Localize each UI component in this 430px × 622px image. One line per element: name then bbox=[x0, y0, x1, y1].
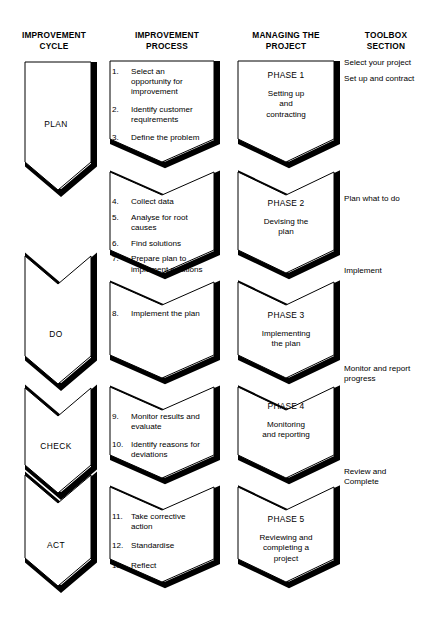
cycle-block-act[interactable]: ACT bbox=[20, 470, 92, 585]
process-item-text: Take corrective action bbox=[131, 512, 185, 531]
phase-title: PHASE 1 bbox=[234, 70, 338, 80]
phase-subtitle: Reviewing and completing a project bbox=[234, 533, 338, 564]
process-item-number: 12. bbox=[112, 541, 128, 551]
project-block-phase-3[interactable]: PHASE 3 Implementing the plan bbox=[234, 278, 338, 381]
cycle-block-plan[interactable]: PLAN bbox=[20, 57, 92, 190]
process-item-number: 13. bbox=[112, 561, 128, 571]
project-block-phase-1[interactable]: PHASE 1 Setting up and contracting bbox=[234, 57, 338, 165]
process-item-text: Analyse for root causes bbox=[131, 213, 188, 232]
column-header-toolbox-section: TOOLBOX SECTION bbox=[344, 30, 428, 51]
process-item: 9. Monitor results and evaluate bbox=[112, 412, 206, 432]
process-block-3[interactable]: 8. Implement the plan bbox=[106, 278, 218, 381]
cycle-block-do[interactable]: DO bbox=[20, 251, 92, 384]
toolbox-item-monitor-and-report-progress[interactable]: Monitor and report progress bbox=[344, 364, 430, 385]
cycle-block-label: DO bbox=[20, 329, 92, 339]
process-block-4[interactable]: 9. Monitor results and evaluate 10. Iden… bbox=[106, 383, 218, 481]
process-item-text: Find solutions bbox=[131, 239, 181, 248]
process-item-list: 4. Collect data 5. Analyse for root caus… bbox=[112, 197, 206, 282]
process-item-list: 11. Take corrective action 12. Standardi… bbox=[112, 512, 206, 578]
process-item: 8. Implement the plan bbox=[112, 309, 206, 319]
process-item-number: 3. bbox=[112, 133, 128, 143]
process-item-list: 1. Select an opportunity for improvement… bbox=[112, 67, 206, 151]
process-item-text: Identify reasons for deviations bbox=[131, 440, 200, 459]
phase-subtitle: Monitoring and reporting bbox=[234, 420, 338, 441]
phase-subtitle: Setting up and contracting bbox=[234, 89, 338, 120]
process-item: 6. Find solutions bbox=[112, 239, 206, 249]
phase-title: PHASE 4 bbox=[234, 401, 338, 411]
toolbox-item-review-and-complete[interactable]: Review and Complete bbox=[344, 467, 430, 488]
process-item-number: 9. bbox=[112, 412, 128, 422]
phase-title: PHASE 2 bbox=[234, 198, 338, 208]
process-item-number: 4. bbox=[112, 197, 128, 207]
phase-subtitle: Devising the plan bbox=[234, 217, 338, 238]
process-item-number: 5. bbox=[112, 213, 128, 223]
process-item-text: Reflect bbox=[131, 561, 156, 570]
cycle-block-label: ACT bbox=[20, 540, 92, 550]
project-block-phase-4[interactable]: PHASE 4 Monitoring and reporting bbox=[234, 383, 338, 481]
process-item-text: Select an opportunity for improvement bbox=[131, 67, 183, 96]
process-item-number: 10. bbox=[112, 440, 128, 450]
process-item-number: 11. bbox=[112, 512, 128, 522]
process-item: 5. Analyse for root causes bbox=[112, 213, 206, 233]
process-item: 3. Define the problem bbox=[112, 133, 206, 143]
process-item-list: 9. Monitor results and evaluate 10. Iden… bbox=[112, 412, 206, 468]
process-item-number: 6. bbox=[112, 239, 128, 249]
process-item: 12. Standardise bbox=[112, 541, 206, 551]
process-block-1[interactable]: 1. Select an opportunity for improvement… bbox=[106, 57, 218, 165]
column-header-improvement-cycle: IMPROVEMENT CYCLE bbox=[8, 30, 100, 51]
diagram-canvas: IMPROVEMENT CYCLE IMPROVEMENT PROCESS MA… bbox=[0, 0, 430, 622]
process-item-text: Implement the plan bbox=[131, 309, 200, 318]
phase-subtitle: Implementing the plan bbox=[234, 329, 338, 350]
process-item-number: 2. bbox=[112, 105, 128, 115]
phase-title: PHASE 3 bbox=[234, 310, 338, 320]
process-item-text: Standardise bbox=[131, 541, 174, 550]
toolbox-item-set-up-and-contract[interactable]: Set up and contract bbox=[344, 74, 430, 84]
process-item: 10. Identify reasons for deviations bbox=[112, 440, 206, 460]
process-block-2[interactable]: 4. Collect data 5. Analyse for root caus… bbox=[106, 168, 218, 276]
toolbox-item-select-your-project[interactable]: Select your project bbox=[344, 58, 430, 68]
toolbox-item-implement[interactable]: Implement bbox=[344, 266, 430, 276]
process-item: 2. Identify customer requirements bbox=[112, 105, 206, 125]
process-item-text: Prepare plan to implement solutions bbox=[131, 254, 203, 273]
process-item: 13. Reflect bbox=[112, 561, 206, 571]
process-item: 11. Take corrective action bbox=[112, 512, 206, 532]
toolbox-item-plan-what-to-do[interactable]: Plan what to do bbox=[344, 194, 430, 204]
process-item-text: Monitor results and evaluate bbox=[131, 412, 200, 431]
process-item-list: 8. Implement the plan bbox=[112, 309, 206, 327]
phase-title: PHASE 5 bbox=[234, 514, 338, 524]
process-item: 1. Select an opportunity for improvement bbox=[112, 67, 206, 98]
cycle-block-label: PLAN bbox=[20, 119, 92, 129]
process-item: 4. Collect data bbox=[112, 197, 206, 207]
process-item-number: 1. bbox=[112, 67, 128, 77]
process-item-text: Collect data bbox=[131, 197, 174, 206]
process-item-number: 7. bbox=[112, 254, 128, 264]
project-block-phase-2[interactable]: PHASE 2 Devising the plan bbox=[234, 168, 338, 276]
project-block-phase-5[interactable]: PHASE 5 Reviewing and completing a proje… bbox=[234, 483, 338, 585]
column-header-managing-the-project: MANAGING THE PROJECT bbox=[230, 30, 342, 51]
column-header-improvement-process: IMPROVEMENT PROCESS bbox=[108, 30, 226, 51]
cycle-block-label: CHECK bbox=[20, 441, 92, 451]
process-item-text: Define the problem bbox=[131, 133, 199, 142]
process-item-number: 8. bbox=[112, 309, 128, 319]
process-block-5[interactable]: 11. Take corrective action 12. Standardi… bbox=[106, 483, 218, 585]
process-item-text: Identify customer requirements bbox=[131, 105, 193, 124]
process-item: 7. Prepare plan to implement solutions bbox=[112, 254, 206, 274]
